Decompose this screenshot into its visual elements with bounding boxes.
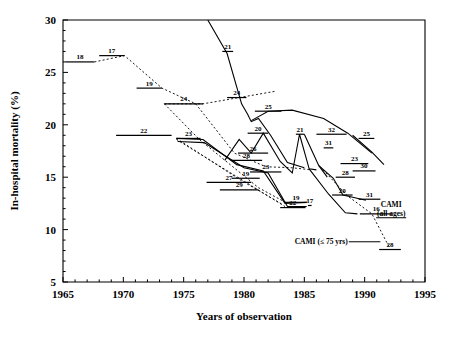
x-tick-label: 1985 (293, 288, 316, 300)
study-label: 17 (108, 47, 116, 55)
study-label: 24 (180, 95, 188, 103)
chart-figure: 1965197019751980198519901995 51015202530… (0, 0, 454, 337)
series-trend-solid-arc-25 (251, 110, 372, 153)
x-tick-label: 1975 (173, 288, 196, 300)
study-label: 26 (250, 145, 258, 153)
series-trend-dashed-fan-b (164, 104, 287, 204)
y-tick-label: 5 (51, 276, 57, 288)
study-label: 21 (297, 126, 305, 134)
study-label: 29 (236, 181, 244, 189)
x-tick-label: 1980 (233, 288, 256, 300)
study-label: 23 (351, 155, 359, 163)
x-tick-label: 1995 (414, 288, 437, 300)
y-tick-label: 25 (45, 66, 57, 78)
study-label: 28 (342, 169, 350, 177)
study-label: 23 (185, 130, 193, 138)
study-label: 25 (363, 130, 371, 138)
y-tick-label: 20 (45, 119, 57, 131)
study-label: 31 (325, 139, 333, 147)
x-tick-label: 1990 (354, 288, 377, 300)
data-series-group (94, 20, 388, 246)
study-label: 28 (387, 241, 395, 249)
study-label: 25 (265, 103, 273, 111)
annotations-group: CAMI(all ages)CAMI (≤ 75 yrs) (295, 200, 407, 247)
cami-75yrs-label: CAMI (≤ 75 yrs) (295, 237, 349, 246)
study-label: 30 (361, 162, 369, 170)
study-label: 20 (254, 125, 262, 133)
study-label: 31 (366, 191, 374, 199)
x-tick-label: 1970 (112, 288, 135, 300)
study-label: 22 (289, 199, 297, 207)
series-trend-solid-20-down (309, 169, 357, 214)
y-tick-labels: 51015202530 (45, 14, 57, 288)
cami-all-ages-label-line2: (all ages) (377, 209, 406, 218)
study-label: 19 (242, 170, 250, 178)
y-axis-title: In-hospital mortality (%) (8, 91, 21, 211)
chart-canvas: 1965197019751980198519901995 51015202530… (0, 0, 454, 337)
study-label: 23 (262, 163, 270, 171)
cami-all-ages-label-line1: CAMI (381, 200, 402, 209)
study-label: 19 (146, 80, 154, 88)
study-label: 27 (225, 174, 233, 182)
study-label: 28 (243, 152, 251, 160)
y-tick-label: 10 (45, 224, 57, 236)
series-trend-dashed-upper (94, 56, 311, 170)
study-label: 22 (140, 127, 148, 135)
study-label: 21 (224, 43, 232, 51)
study-label: 32 (328, 126, 336, 134)
study-label: 18 (76, 53, 84, 61)
study-label: 20 (339, 187, 347, 195)
x-tick-label: 1965 (52, 288, 75, 300)
study-label: 17 (306, 197, 314, 205)
y-tick-label: 30 (45, 14, 57, 26)
y-tick-label: 15 (45, 171, 57, 183)
study-label: 24 (233, 89, 241, 97)
x-tick-labels: 1965197019751980198519901995 (52, 288, 437, 300)
x-axis-title: Years of observation (196, 310, 292, 322)
